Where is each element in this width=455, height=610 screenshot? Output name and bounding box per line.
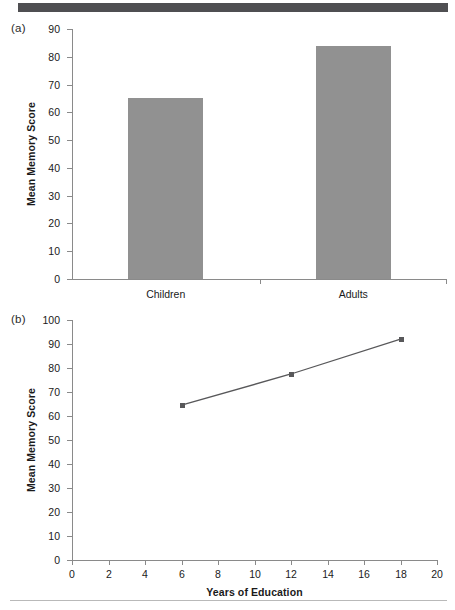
figure-root: (a) 0102030405060708090Mean Memory Score… xyxy=(0,0,455,610)
bottom-divider-rule xyxy=(10,600,447,601)
panel-b-data-point xyxy=(399,337,404,342)
panel-b-data-point xyxy=(180,403,185,408)
panel-b-data-point xyxy=(289,372,294,377)
panel-b-series-line xyxy=(0,0,455,610)
